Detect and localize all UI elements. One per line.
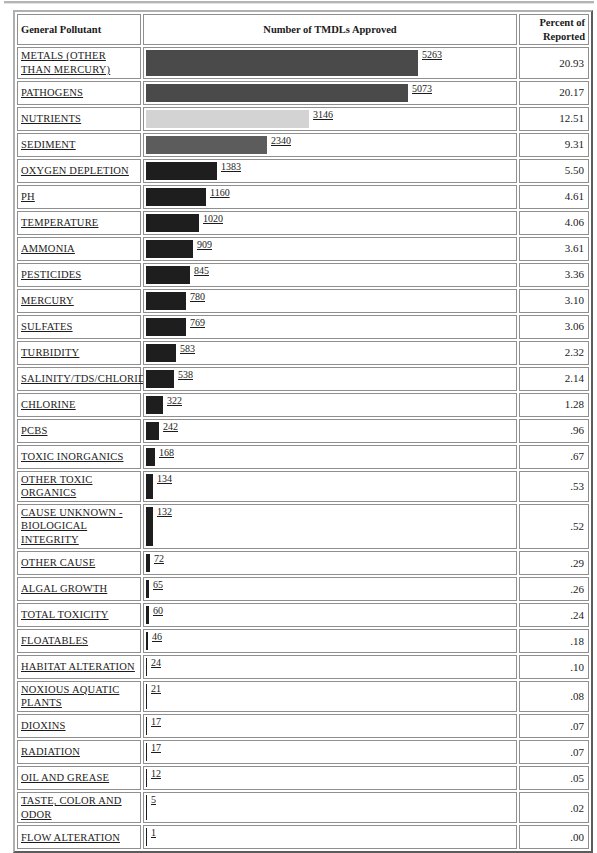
pollutant-link[interactable]: FLOATABLES: [21, 635, 88, 646]
pollutant-cell: TEMPERATURE: [17, 211, 141, 235]
table-row: MERCURY 780 3.10: [17, 289, 589, 313]
pollutant-link[interactable]: OIL AND GREASE: [21, 772, 109, 783]
percent-value: .02: [519, 792, 589, 823]
table-row: FLOW ALTERATION 1 .00: [17, 825, 589, 849]
tmdl-count-link[interactable]: 134: [157, 473, 172, 485]
bar-wrap: 322: [146, 396, 514, 414]
percent-value: .96: [519, 419, 589, 443]
pollutant-link[interactable]: TEMPERATURE: [21, 217, 98, 228]
tmdl-count-link[interactable]: 538: [178, 369, 193, 381]
pollutant-link[interactable]: MERCURY: [21, 295, 74, 306]
pollutant-link[interactable]: PCBS: [21, 425, 48, 436]
tmdl-count-link[interactable]: 1383: [221, 161, 241, 173]
tmdl-count-link[interactable]: 65: [153, 579, 163, 591]
pollutant-link[interactable]: AMMONIA: [21, 243, 75, 254]
tmdl-count-link[interactable]: 322: [167, 395, 182, 407]
bar-wrap: 780: [146, 292, 514, 310]
tmdl-count-link[interactable]: 780: [190, 291, 205, 303]
percent-value: 5.50: [519, 159, 589, 183]
pollutant-link[interactable]: FLOW ALTERATION: [21, 832, 120, 843]
pollutant-link[interactable]: TASTE, COLOR AND ODOR: [21, 795, 122, 820]
bar-wrap: 72: [146, 554, 514, 572]
table-row: TOXIC INORGANICS 168 .67: [17, 445, 589, 469]
pollutant-cell: FLOATABLES: [17, 629, 141, 653]
bar-cell: 5: [143, 792, 517, 823]
pollutant-link[interactable]: PH: [21, 191, 35, 202]
tmdl-count-link[interactable]: 583: [180, 343, 195, 355]
tmdl-count-link[interactable]: 5073: [412, 83, 432, 95]
tmdl-count-link[interactable]: 21: [151, 683, 161, 695]
bar-wrap: 5263: [146, 50, 514, 75]
tmdl-count-link[interactable]: 72: [154, 553, 164, 565]
pollutant-link[interactable]: OTHER CAUSE: [21, 557, 95, 568]
bar-wrap: 3146: [146, 110, 514, 128]
table-row: CAUSE UNKNOWN - BIOLOGICAL INTEGRITY 132…: [17, 504, 589, 549]
pollutant-link[interactable]: NUTRIENTS: [21, 113, 81, 124]
tmdl-count-link[interactable]: 845: [194, 265, 209, 277]
percent-value: 1.28: [519, 393, 589, 417]
percent-value: .29: [519, 551, 589, 575]
bar-cell: 21: [143, 681, 517, 712]
bar-wrap: 1: [146, 828, 514, 846]
percent-value: 20.93: [519, 47, 589, 78]
pollutant-link[interactable]: OXYGEN DEPLETION: [21, 165, 129, 176]
tmdl-count-link[interactable]: 1160: [210, 187, 230, 199]
tmdl-count-link[interactable]: 17: [151, 716, 161, 728]
tmdl-count-link[interactable]: 2340: [271, 135, 291, 147]
pollutant-link[interactable]: ALGAL GROWTH: [21, 583, 107, 594]
table-row: CHLORINE 322 1.28: [17, 393, 589, 417]
tmdl-count-link[interactable]: 1: [151, 827, 156, 839]
pollutant-link[interactable]: CHLORINE: [21, 399, 76, 410]
bar-cell: 909: [143, 237, 517, 261]
tmdl-count-link[interactable]: 909: [197, 239, 212, 251]
tmdl-table: General Pollutant Number of TMDLs Approv…: [13, 10, 593, 853]
bar-wrap: 769: [146, 318, 514, 336]
bar-wrap: 168: [146, 448, 514, 466]
tmdl-count-link[interactable]: 5: [151, 794, 156, 806]
pollutant-link[interactable]: CAUSE UNKNOWN - BIOLOGICAL INTEGRITY: [21, 507, 123, 545]
pollutant-link[interactable]: TURBIDITY: [21, 347, 79, 358]
table-row: HABITAT ALTERATION 24 .10: [17, 655, 589, 679]
table-row: OTHER CAUSE 72 .29: [17, 551, 589, 575]
pollutant-link[interactable]: SALINITY/TDS/CHLORIDES: [21, 373, 158, 384]
tmdl-bar: [146, 110, 309, 128]
tmdl-count-link[interactable]: 12: [151, 768, 161, 780]
tmdl-count-link[interactable]: 132: [157, 506, 172, 518]
bar-wrap: 242: [146, 422, 514, 440]
pollutant-link[interactable]: SEDIMENT: [21, 139, 76, 150]
pollutant-link[interactable]: HABITAT ALTERATION: [21, 661, 135, 672]
tmdl-count-link[interactable]: 769: [190, 317, 205, 329]
bar-cell: 1160: [143, 185, 517, 209]
tmdl-count-link[interactable]: 46: [152, 631, 162, 643]
pollutant-link[interactable]: SULFATES: [21, 321, 73, 332]
bar-wrap: 1383: [146, 162, 514, 180]
pollutant-link[interactable]: NOXIOUS AQUATIC PLANTS: [21, 684, 119, 709]
tmdl-count-link[interactable]: 3146: [313, 109, 333, 121]
pollutant-link[interactable]: RADIATION: [21, 746, 80, 757]
tmdl-bar: [146, 188, 206, 206]
pollutant-link[interactable]: PESTICIDES: [21, 269, 81, 280]
pollutant-cell: NUTRIENTS: [17, 107, 141, 131]
pollutant-cell: OTHER TOXIC ORGANICS: [17, 471, 141, 502]
tmdl-count-link[interactable]: 17: [151, 742, 161, 754]
pollutant-link[interactable]: TOXIC INORGANICS: [21, 451, 123, 462]
tmdl-count-link[interactable]: 242: [163, 421, 178, 433]
tmdl-count-link[interactable]: 60: [153, 605, 163, 617]
pollutant-link[interactable]: OTHER TOXIC ORGANICS: [21, 474, 93, 499]
tmdl-count-link[interactable]: 168: [159, 447, 174, 459]
bar-wrap: 5: [146, 795, 514, 820]
table-row: NOXIOUS AQUATIC PLANTS 21 .08: [17, 681, 589, 712]
tmdl-count-link[interactable]: 24: [151, 657, 161, 669]
bar-cell: 5263: [143, 47, 517, 78]
tmdl-bar: [146, 240, 193, 258]
tmdl-count-link[interactable]: 1020: [203, 213, 223, 225]
bar-cell: 242: [143, 419, 517, 443]
bar-wrap: 24: [146, 658, 514, 676]
pollutant-link[interactable]: TOTAL TOXICITY: [21, 609, 109, 620]
tmdl-count-link[interactable]: 5263: [422, 49, 442, 61]
table-row: TEMPERATURE 1020 4.06: [17, 211, 589, 235]
pollutant-link[interactable]: PATHOGENS: [21, 87, 83, 98]
pollutant-link[interactable]: DIOXINS: [21, 720, 66, 731]
tmdl-bar: [146, 84, 408, 102]
pollutant-link[interactable]: METALS (OTHER THAN MERCURY): [21, 50, 110, 75]
